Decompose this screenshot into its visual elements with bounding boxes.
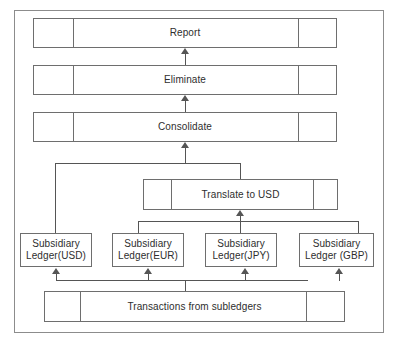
connector-transactions-to-ledger-usd (56, 274, 57, 281)
arrowhead-eliminate-to-report (181, 48, 189, 54)
eliminate-right-divider (298, 66, 299, 94)
node-subsidiary-ledger-gbp-label: Subsidiary Ledger (GBP) (305, 238, 368, 262)
arrowhead-ledgers-to-translate (236, 210, 244, 216)
node-subsidiary-ledger-eur[interactable]: Subsidiary Ledger(EUR) (112, 233, 184, 267)
fanout-bar-from-transactions (56, 280, 308, 281)
arrowhead-transactions-to-ledger-jpy (241, 268, 249, 274)
node-subsidiary-ledger-jpy[interactable]: Subsidiary Ledger(JPY) (205, 233, 277, 267)
consolidate-right-divider (298, 113, 299, 141)
node-report-label: Report (170, 27, 201, 39)
merge-bar-to-consolidate (55, 163, 241, 164)
connector-merge-to-consolidate (185, 148, 186, 163)
node-translate-to-usd-label: Translate to USD (202, 189, 280, 201)
node-subsidiary-ledger-eur-label: Subsidiary Ledger(EUR) (118, 238, 178, 262)
report-left-divider (73, 19, 74, 47)
arrowhead-transactions-to-ledger-usd (52, 268, 60, 274)
connector-ledger-usd-riser (55, 163, 56, 233)
transactions-right-divider (306, 292, 307, 321)
node-report[interactable]: Report (33, 18, 337, 48)
connector-transactions-riser (185, 280, 186, 291)
node-consolidate-label: Consolidate (158, 121, 212, 133)
arrowhead-transactions-to-ledger-eur (144, 268, 152, 274)
connector-ledger-gbp-riser (358, 221, 359, 233)
connector-translate-riser (240, 163, 241, 179)
node-subsidiary-ledger-usd-label: Subsidiary Ledger(USD) (26, 238, 86, 262)
connector-eliminate-to-report (185, 54, 186, 65)
connector-ledger-eur-riser (138, 221, 139, 233)
node-transactions-from-subledgers-label: Transactions from subledgers (127, 301, 261, 313)
diagram-frame (14, 10, 384, 333)
translate-left-divider (171, 180, 172, 209)
fanout-bar-to-translate (138, 221, 358, 222)
report-right-divider (298, 19, 299, 47)
arrowhead-merge-to-consolidate (181, 142, 189, 148)
node-translate-to-usd[interactable]: Translate to USD (143, 179, 338, 210)
arrowhead-consolidate-to-eliminate (181, 95, 189, 101)
translate-right-divider (313, 180, 314, 209)
node-transactions-from-subledgers[interactable]: Transactions from subledgers (44, 291, 345, 322)
diagram-canvas: Report Eliminate Consolidate Translate t… (0, 0, 396, 345)
node-consolidate[interactable]: Consolidate (33, 112, 337, 142)
node-subsidiary-ledger-jpy-label: Subsidiary Ledger(JPY) (212, 238, 269, 262)
node-subsidiary-ledger-gbp[interactable]: Subsidiary Ledger (GBP) (299, 233, 374, 267)
transactions-left-divider (80, 292, 81, 321)
consolidate-left-divider (73, 113, 74, 141)
connector-transactions-to-ledger-eur (148, 274, 149, 281)
node-eliminate[interactable]: Eliminate (33, 65, 337, 95)
connector-ledger-jpy-riser (240, 221, 241, 233)
node-eliminate-label: Eliminate (164, 74, 206, 86)
connector-consolidate-to-eliminate (185, 101, 186, 112)
connector-transactions-to-ledger-jpy (245, 274, 246, 281)
arrowhead-transactions-to-ledger-gbp (335, 268, 343, 274)
node-subsidiary-ledger-usd[interactable]: Subsidiary Ledger(USD) (20, 233, 92, 267)
eliminate-left-divider (73, 66, 74, 94)
connector-transactions-to-ledger-gbp (339, 274, 340, 281)
